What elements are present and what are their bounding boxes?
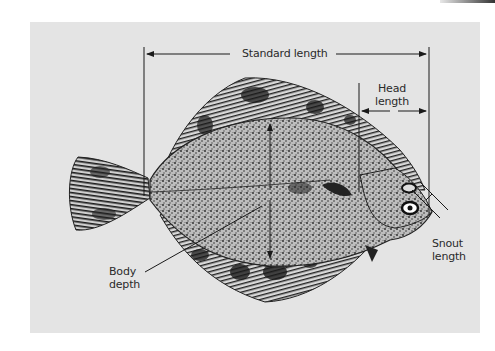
caudal-fin [69, 157, 150, 230]
head-length-label-line1: Head [372, 82, 412, 95]
snout-length-label-line2: length [432, 250, 466, 263]
standard-length-label: Standard length [238, 47, 332, 60]
head-length-label-line2: length [372, 95, 412, 108]
body-depth-label-line1: Body [109, 265, 140, 278]
snout-length-label-line1: Snout [432, 237, 466, 250]
head-length-label: Head length [372, 82, 412, 108]
snout-length-label: Snout length [432, 237, 466, 263]
body-depth-label: Body depth [109, 265, 140, 291]
body-depth-label-line2: depth [109, 278, 140, 291]
